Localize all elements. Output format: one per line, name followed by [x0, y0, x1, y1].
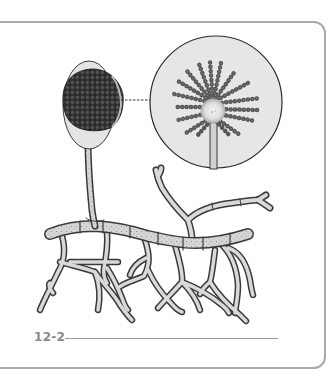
fungus-illustration [0, 0, 335, 380]
magnified-inset [150, 36, 282, 169]
upper-branch-hypha [156, 168, 270, 240]
vesicle [201, 99, 225, 123]
figure-number: 12-2 [34, 330, 65, 344]
caption-line [65, 338, 278, 339]
spore-head [63, 61, 123, 149]
conidiophore-stalk [86, 140, 104, 226]
